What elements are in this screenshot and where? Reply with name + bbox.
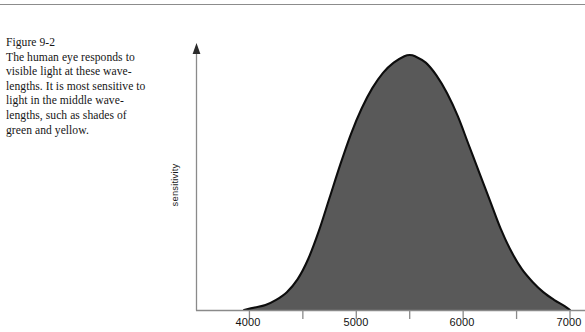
- x-tick-label-5000: 5000: [334, 316, 378, 328]
- sensitivity-chart: sensitivity 4000 5000 6000 7000: [0, 0, 585, 332]
- x-tick-label-6000: 6000: [440, 316, 484, 328]
- chart-svg: [0, 0, 585, 332]
- x-axis-ticks: [249, 310, 570, 319]
- y-axis-title-text: sensitivity: [168, 150, 182, 220]
- sensitivity-curve-area: [244, 55, 570, 310]
- y-axis-arrow-icon: [193, 43, 201, 54]
- x-tick-label-7000: 7000: [547, 316, 585, 328]
- x-tick-label-4000: 4000: [226, 316, 270, 328]
- y-axis-title: sensitivity: [140, 178, 210, 192]
- figure-page: Figure 9-2 The human eye responds to vis…: [0, 0, 585, 332]
